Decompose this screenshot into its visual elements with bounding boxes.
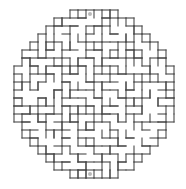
maze-canvas <box>0 0 186 189</box>
maze-background <box>0 0 186 189</box>
maze-exit-marker <box>88 172 92 176</box>
maze-entrance-marker <box>88 12 92 16</box>
maze-figure <box>0 0 186 189</box>
